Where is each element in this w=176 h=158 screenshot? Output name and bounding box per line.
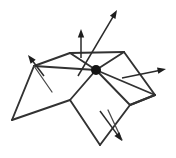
mesh-vertex-diagram xyxy=(0,0,176,158)
center-vertex-group xyxy=(91,65,101,75)
edge-ridge-top xyxy=(70,52,124,53)
center-vertex-dot xyxy=(91,65,101,75)
figure-root xyxy=(0,0,176,158)
